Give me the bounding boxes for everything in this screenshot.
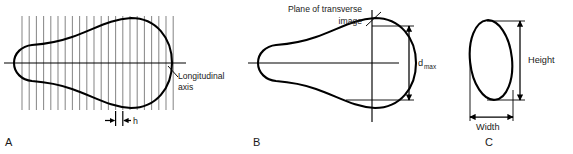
cross-section-outline (466, 18, 516, 102)
transverse-plane-label-line1: Plane of transverse (288, 4, 362, 14)
panel-letter-c: C (485, 136, 493, 148)
dmax-label-base: d (418, 58, 423, 68)
height-dimension (487, 21, 525, 100)
dmax-label-subscript: max (424, 63, 437, 70)
panel-c: Height Width C (466, 18, 555, 148)
width-label: Width (476, 122, 500, 132)
panel-letter-b: B (253, 136, 260, 148)
figure-container: Longitudinal axis h A Plane of transvers… (0, 0, 573, 154)
slice-spacing-indicator (105, 111, 131, 126)
panel-letter-a: A (5, 136, 13, 148)
transverse-plane-label-line2: image (339, 16, 363, 26)
panel-b: Plane of transverse image d max B (248, 4, 437, 148)
longitudinal-axis-label-line2: axis (178, 82, 193, 92)
height-label: Height (528, 55, 555, 65)
slice-spacing-label: h (133, 116, 138, 126)
anatomical-measurement-diagram: Longitudinal axis h A Plane of transvers… (0, 0, 573, 154)
panel-a: Longitudinal axis h A (4, 16, 224, 148)
longitudinal-axis-label-line1: Longitudinal (178, 71, 224, 81)
